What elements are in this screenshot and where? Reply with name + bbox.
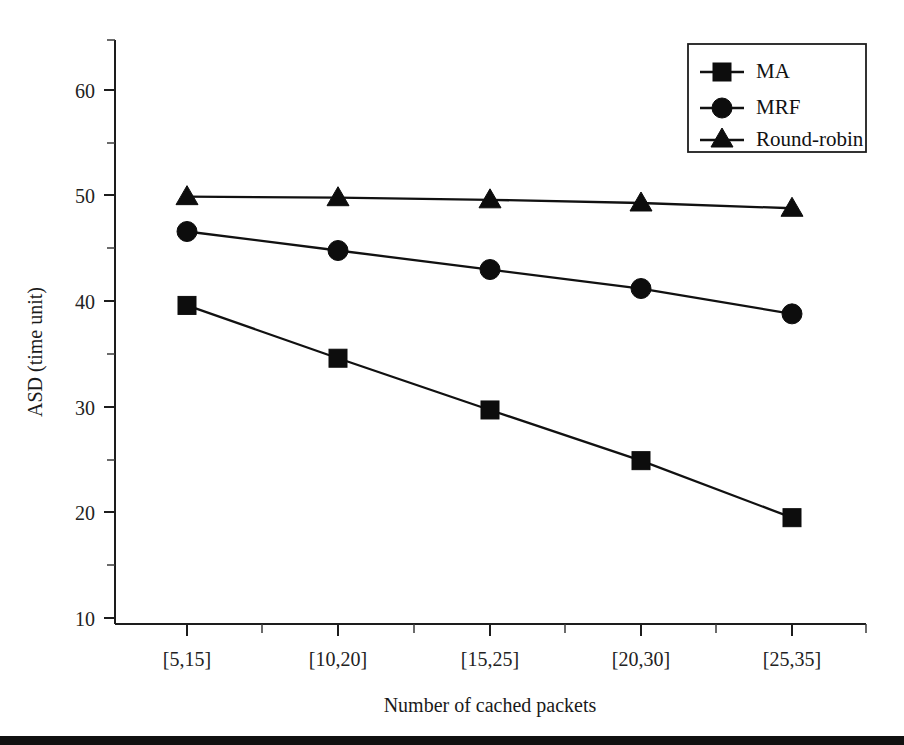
legend: MA MRF Round-robin: [688, 44, 866, 152]
legend-label-round-robin: Round-robin: [756, 127, 864, 151]
figure-container: 10 20 30 40 50 60 [5,15] [10,20] [15,25]…: [0, 0, 904, 745]
y-tick-label-30: 30: [75, 397, 95, 419]
circle-marker-icon: [782, 304, 802, 324]
x-tick-label-4: [25,35]: [763, 648, 821, 670]
y-tick-label-50: 50: [75, 185, 95, 207]
y-tick-label-10: 10: [75, 608, 95, 630]
triangle-marker-icon: [781, 197, 803, 216]
line-chart: 10 20 30 40 50 60 [5,15] [10,20] [15,25]…: [0, 0, 904, 745]
y-axis-minor-ticks: [107, 40, 115, 565]
legend-label-ma: MA: [756, 59, 791, 83]
triangle-marker-icon: [479, 189, 501, 208]
y-axis-title: ASD (time unit): [24, 287, 47, 417]
circle-marker-icon: [480, 260, 500, 280]
triangle-marker-icon: [176, 186, 198, 205]
x-tick-label-0: [5,15]: [163, 648, 211, 670]
series-layer: [176, 186, 803, 527]
square-marker-icon: [481, 401, 499, 419]
circle-marker-icon: [328, 241, 348, 261]
y-tick-label-40: 40: [75, 291, 95, 313]
triangle-marker-icon: [327, 187, 349, 206]
triangle-marker-icon: [630, 192, 652, 211]
square-marker-icon: [329, 349, 347, 367]
x-tick-label-2: [15,25]: [461, 648, 519, 670]
x-axis-major-ticks: [187, 624, 792, 636]
square-marker-icon: [632, 452, 650, 470]
x-axis-minor-ticks: [262, 624, 866, 633]
square-marker-icon: [713, 63, 731, 81]
y-tick-label-20: 20: [75, 502, 95, 524]
square-marker-icon: [783, 509, 801, 527]
square-marker-icon: [178, 296, 196, 314]
circle-marker-icon: [177, 222, 197, 242]
legend-label-mrf: MRF: [756, 95, 800, 119]
x-tick-label-3: [20,30]: [612, 648, 670, 670]
series-mrf: [177, 222, 802, 324]
series-ma: [178, 296, 801, 526]
x-tick-label-1: [10,20]: [309, 648, 367, 670]
circle-marker-icon: [631, 279, 651, 299]
x-axis-title: Number of cached packets: [384, 694, 597, 717]
y-tick-label-60: 60: [75, 80, 95, 102]
series-round-robin: [176, 186, 803, 217]
page-bottom-rule: [0, 736, 904, 745]
circle-marker-icon: [712, 98, 732, 118]
